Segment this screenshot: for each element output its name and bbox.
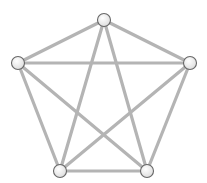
node-bottom-right (141, 165, 154, 178)
edge-top-bottom-right (104, 20, 147, 171)
node-right (184, 57, 197, 70)
edge-right-bottom-left (60, 63, 190, 171)
edge-top-right (104, 20, 190, 63)
edge-top-left (18, 20, 104, 63)
complete-graph-diagram (0, 0, 207, 183)
node-left (12, 57, 25, 70)
nodes-group (12, 14, 197, 178)
edges-group (18, 20, 190, 171)
node-bottom-left (54, 165, 67, 178)
node-top (98, 14, 111, 27)
edge-top-bottom-left (60, 20, 104, 171)
